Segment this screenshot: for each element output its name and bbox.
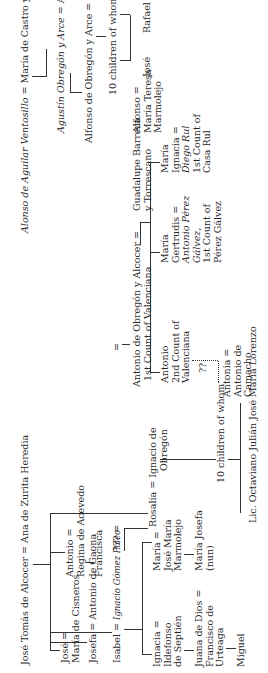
- person-julian: Julián: [247, 423, 258, 451]
- dotted-connector: [192, 360, 218, 361]
- person-juana-de-dios: Juana de Dios =Francisco deUrteaga: [194, 590, 226, 667]
- person-rafael: Rafael: [142, 2, 153, 33]
- person-ignacia-septien: Ignacia =Ildefonsode Septién: [152, 615, 184, 667]
- connector: [50, 514, 51, 651]
- root-couple: José Tomás de Alcocer = Ana de Zurita He…: [20, 435, 31, 665]
- person-antonio: Antonio =Regina de Acevedo: [65, 485, 86, 577]
- connector: [50, 552, 65, 553]
- person-alfonso-marmolejo: Alfonso =María TeresaMarmolejo: [132, 69, 164, 133]
- connector: [70, 92, 82, 93]
- connector: [33, 564, 51, 565]
- connector: [96, 36, 106, 37]
- connector: [124, 528, 148, 529]
- connector: [50, 513, 148, 514]
- person-unknown: ??? =: [112, 525, 123, 551]
- gen2-couple: Alfonso de Obregón y Arce = Manuela de U…: [84, 0, 95, 143]
- person-alonso-aguilar: Alonso de Aguilar Ventosillo: [19, 98, 30, 233]
- person-maria-gertrudis: MaríaGertrudis =Antonio PérezGálvez,1st …: [160, 196, 223, 263]
- person-maria-marmolejo: María =José MaríaMarmolejo: [152, 519, 184, 571]
- connector: [50, 632, 112, 633]
- connector: [122, 344, 130, 345]
- person-jose-right: José: [142, 57, 153, 77]
- connector: [70, 73, 71, 93]
- connector: [160, 459, 216, 460]
- connector: [142, 543, 143, 655]
- person-antonia-camacho: Antonia =Antonio deCamacho: [222, 345, 254, 397]
- genealogy-chart: José Tomás de Alcocer = Ana de Zurita He…: [0, 0, 268, 673]
- unknown-link: ??: [198, 363, 209, 373]
- person-octaviano: Lic. Octaviano: [247, 454, 258, 523]
- person-rosalia: Rosalía = Ignacio deObregón: [148, 427, 169, 527]
- connector: [46, 49, 47, 77]
- person-jose: José =María de Cisneros: [60, 575, 81, 663]
- connector: [150, 163, 151, 373]
- person-miguel: Miguel: [236, 633, 247, 667]
- connector: [32, 76, 46, 77]
- dotted-connector: [218, 361, 219, 383]
- gen0-couple: Alonso de Aguilar Ventosillo = María de …: [20, 0, 31, 233]
- person-antonio-2nd-count: Antonio2nd Count ofValenciana: [160, 320, 192, 383]
- connector: [124, 629, 142, 630]
- person-maria-ignacia: MaríaIgnacia =Diego Rul1st Count ofCasa …: [160, 114, 213, 173]
- person-maria-castro: María de Castro y Busto: [19, 0, 30, 84]
- person-jose-tomas: José Tomás de Alcocer: [19, 557, 30, 665]
- person-francisca: Francisca: [94, 530, 105, 577]
- person-antonia-right: Antonia: [55, 0, 66, 3]
- gen1-couple: Agustín Obregón y Arce = Antonia: [56, 0, 67, 133]
- connector: [124, 529, 125, 551]
- connector: [240, 403, 241, 513]
- person-alfonso-obregon: Alfonso de Obregón y Arce: [83, 14, 94, 143]
- connector: [50, 642, 87, 643]
- person-maria-josefa: María Josefa(nun): [194, 510, 215, 571]
- gen2-children-note: 10 children of whom: [108, 0, 119, 95]
- person-agustin-obregon: Agustín Obregón y Arce: [55, 17, 66, 133]
- person-ana-zurita: Ana de Zurita Heredia: [19, 435, 30, 543]
- connector: [120, 14, 130, 15]
- rosalia-children-note: 10 children of whom: [216, 384, 227, 483]
- connector: [228, 459, 240, 460]
- connector: [130, 15, 131, 61]
- connector: [140, 223, 141, 245]
- connector: [120, 60, 130, 61]
- connector: [140, 222, 150, 223]
- eq-mark: =: [112, 343, 123, 351]
